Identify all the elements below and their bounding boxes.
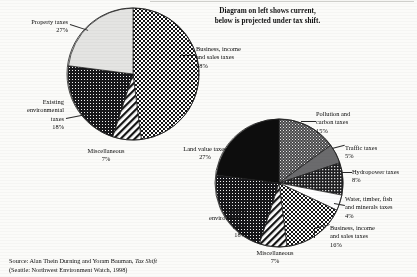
figure-caption: Diagram on left shows current, below is … — [185, 7, 350, 26]
caption-line-2: below is projected under tax shift. — [185, 17, 350, 27]
top-rule — [150, 1, 414, 2]
pie-current-svg — [63, 4, 203, 144]
leader-business-income-sales-taxes-projected-stem — [314, 228, 315, 238]
source-line-2: (Seattle: Northwest Environment Watch, 1… — [9, 265, 239, 274]
leader-hydropower-taxes — [341, 172, 352, 173]
label-business-income-sales-taxes-projected: Business, income and sales taxes 16% — [330, 224, 400, 249]
label-business-income-sales-taxes-current: Business, income and sales taxes 48% — [196, 45, 262, 70]
label-existing-environmental-taxes-projected: Existing environmental taxes 18% — [184, 206, 246, 240]
label-land-value-taxes: Land value taxes 27% — [159, 145, 251, 162]
slice-property-taxes — [69, 8, 134, 74]
source-line-1-prefix: Source: Alan Thein Durning and Yoram Bau… — [9, 257, 135, 264]
label-miscellaneous-projected: Miscellaneous 7% — [240, 249, 310, 266]
label-pollution-carbon-taxes: Pollution and carbon taxes 15% — [316, 110, 388, 135]
slice-business-income-sales-taxes — [133, 8, 199, 139]
label-property-taxes: Property taxes 27% — [2, 18, 68, 35]
pie-chart-current — [63, 4, 203, 144]
label-miscellaneous-current: Miscellaneous 7% — [75, 147, 137, 164]
source-citation: Source: Alan Thein Durning and Yoram Bau… — [9, 256, 239, 275]
label-hydropower-taxes: Hydropower taxes 8% — [352, 168, 416, 185]
label-existing-environmental-taxes-current: Existing environmental taxes 18% — [0, 98, 64, 132]
caption-line-1: Diagram on left shows current, — [185, 7, 350, 17]
label-water-timber-fish-minerals-taxes: Water, timber, fish and minerals taxes 4… — [345, 195, 417, 220]
figure-root: Property taxes 27% Existing environmenta… — [0, 0, 417, 277]
leader-business-income-sales-taxes-current — [180, 55, 196, 56]
source-title: Tax Shift — [135, 257, 157, 264]
source-line-1: Source: Alan Thein Durning and Yoram Bau… — [9, 256, 239, 265]
leader-pollution-carbon-taxes — [301, 121, 316, 122]
label-traffic-taxes: Traffic taxes 5% — [345, 144, 405, 161]
